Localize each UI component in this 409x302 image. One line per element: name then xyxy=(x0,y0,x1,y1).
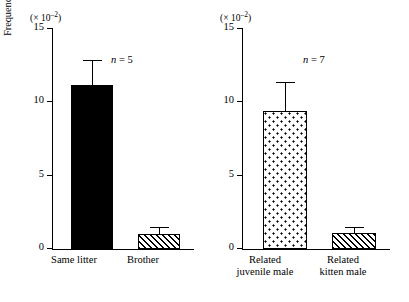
y-ticklabel-0-left: 0 xyxy=(39,241,44,252)
sample-size-right-symbol: n xyxy=(303,54,308,65)
plot-area-left: 0 5 10 15 n = 5 xyxy=(52,28,194,250)
bar-related-kitten-male xyxy=(332,233,376,249)
sample-size-left-value: = 5 xyxy=(119,54,133,65)
x-category-related-kitten-male: Related kitten male xyxy=(302,254,384,277)
y-tick-5-right: 5 xyxy=(237,175,243,176)
bar-same-litter xyxy=(71,85,113,249)
errorcap-related-kitten-male xyxy=(345,227,364,228)
y-tick-15-left: 15 xyxy=(47,28,53,29)
y-tick-0-right: 0 xyxy=(237,248,243,249)
exponent-note-left-value: –2 xyxy=(50,10,58,19)
sample-size-left-symbol: n xyxy=(111,54,116,65)
errorbar-brother xyxy=(159,228,160,235)
exponent-note-right-close: ) xyxy=(248,13,251,23)
panel-left: (× 10–2) 0 5 10 15 n = 5 xyxy=(22,10,207,302)
x-category-related-juvenile-male: Related juvenile male xyxy=(224,254,306,277)
bar-related-juvenile-male xyxy=(263,111,307,249)
errorbar-same-litter xyxy=(92,61,93,85)
exponent-note-left-close: ) xyxy=(58,13,61,23)
chart-figure: Frequency/scan present/available animal … xyxy=(0,0,409,302)
sample-size-left: n = 5 xyxy=(111,54,133,65)
errorbar-related-kitten-male xyxy=(354,228,355,233)
y-tick-15-right: 15 xyxy=(237,28,243,29)
y-ticklabel-10-left: 10 xyxy=(34,94,45,105)
y-axis-label: Frequency/scan present/available animal xyxy=(2,0,13,36)
panel-right: (× 10–2) 0 5 10 15 n = 7 xyxy=(212,10,402,302)
sample-size-right-value: = 7 xyxy=(311,54,325,65)
y-tick-0-left: 0 xyxy=(47,248,53,249)
errorcap-brother xyxy=(150,227,169,228)
plot-area-right: 0 5 10 15 n = 7 xyxy=(242,28,390,250)
y-ticklabel-15-left: 15 xyxy=(34,21,45,32)
y-tick-10-left: 10 xyxy=(47,101,53,102)
errorcap-related-juvenile-male xyxy=(276,82,295,83)
y-ticklabel-0-right: 0 xyxy=(229,241,234,252)
y-ticklabel-5-left: 5 xyxy=(39,168,44,179)
errorbar-related-juvenile-male xyxy=(285,83,286,111)
y-ticklabel-5-right: 5 xyxy=(229,168,234,179)
x-category-brother: Brother xyxy=(107,254,179,266)
errorcap-same-litter xyxy=(83,60,102,61)
y-tick-10-right: 10 xyxy=(237,101,243,102)
y-tick-5-left: 5 xyxy=(47,175,53,176)
y-ticklabel-10-right: 10 xyxy=(224,94,235,105)
x-category-same-litter: Same litter xyxy=(36,254,112,266)
y-ticklabel-15-right: 15 xyxy=(224,21,235,32)
sample-size-right: n = 7 xyxy=(303,54,325,65)
bar-brother xyxy=(138,234,180,249)
exponent-note-right-value: –2 xyxy=(240,10,248,19)
